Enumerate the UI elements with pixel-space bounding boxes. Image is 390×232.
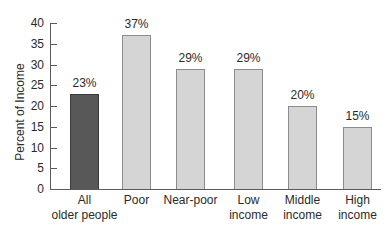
y-tick [50, 189, 57, 190]
y-tick-label: 30 [14, 59, 44, 71]
bar [343, 127, 372, 189]
y-tick [50, 65, 57, 66]
bar [122, 35, 151, 189]
y-tick [50, 168, 57, 169]
y-tick-label: 5 [14, 162, 44, 174]
y-tick-label: 35 [14, 38, 44, 50]
y-tick [50, 23, 57, 24]
y-tick [50, 127, 57, 128]
bar [176, 69, 205, 189]
y-tick [50, 44, 57, 45]
bar-chart: Percent of Income 0510152025303540 23%Al… [0, 0, 390, 232]
y-tick-label: 20 [14, 100, 44, 112]
value-label: 15% [333, 110, 383, 122]
bar [288, 106, 317, 189]
bar [70, 94, 99, 189]
value-label: 29% [166, 52, 216, 64]
y-tick-label: 40 [14, 17, 44, 29]
y-tick-label: 25 [14, 79, 44, 91]
bar [234, 69, 263, 189]
value-label: 37% [112, 18, 162, 30]
category-label: High income [318, 193, 390, 223]
y-tick [50, 148, 57, 149]
y-tick-label: 0 [14, 183, 44, 195]
y-tick [50, 85, 57, 86]
y-tick-label: 10 [14, 142, 44, 154]
y-tick [50, 106, 57, 107]
value-label: 29% [224, 52, 274, 64]
y-tick-label: 15 [14, 121, 44, 133]
value-label: 20% [278, 89, 328, 101]
value-label: 23% [60, 77, 110, 89]
x-axis-line [50, 189, 381, 190]
